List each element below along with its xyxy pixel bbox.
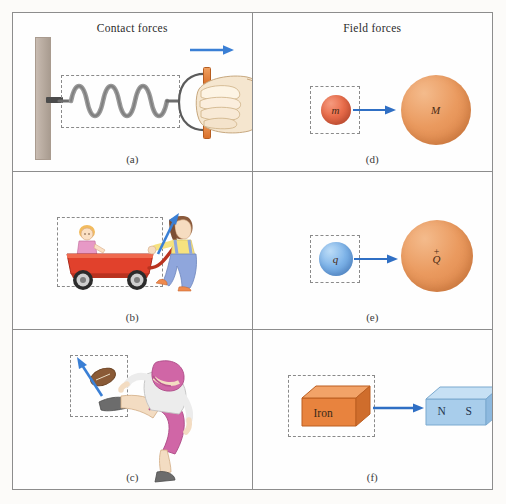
hand xyxy=(189,69,253,139)
caption-b: (b) xyxy=(13,311,252,323)
panel-f: Iron N S (f) xyxy=(253,330,493,489)
charge-q-label: q xyxy=(333,253,339,265)
gravity-arrow-d xyxy=(353,104,397,116)
pull-force-arrow-b xyxy=(152,212,184,256)
panel-a: Contact forces xyxy=(13,13,253,172)
panel-d: Field forces m M (d) xyxy=(253,13,493,172)
mass-M-label: M xyxy=(431,104,440,116)
contact-forces-title: Contact forces xyxy=(13,22,252,34)
iron-label: Iron xyxy=(314,407,333,419)
panel-c: (c) xyxy=(13,330,253,489)
magnetic-force-arrow-f xyxy=(373,402,425,414)
charge-Q-sphere: + Q xyxy=(401,220,473,292)
wagon-and-girl-illustration xyxy=(57,194,217,294)
caption-c: (c) xyxy=(13,471,252,483)
field-forces-title: Field forces xyxy=(253,22,493,34)
mass-m-label: m xyxy=(332,104,340,116)
iron-block: Iron xyxy=(300,384,372,432)
caption-d: (d) xyxy=(253,153,493,165)
charge-q-sphere: q xyxy=(319,242,353,276)
magnet-block: N S xyxy=(424,385,493,433)
caption-e: (e) xyxy=(253,311,493,323)
caption-f: (f) xyxy=(253,471,493,483)
physics-figure: Contact forces xyxy=(0,0,506,504)
electric-force-arrow-e xyxy=(354,253,399,265)
panel-b: (b) xyxy=(13,172,253,331)
panel-grid: Contact forces xyxy=(12,12,493,490)
football-player xyxy=(91,358,211,486)
contact-direction-arrow xyxy=(189,44,235,56)
spring xyxy=(57,77,181,129)
mass-m-sphere: m xyxy=(321,95,351,125)
panel-e: q + Q (e) xyxy=(253,172,493,331)
mass-M-sphere: M xyxy=(401,75,471,145)
magnet-north-label: N xyxy=(438,405,446,417)
magnet-south-label: S xyxy=(466,405,472,417)
caption-a: (a) xyxy=(13,153,252,165)
charge-Q-label: Q xyxy=(433,253,441,265)
